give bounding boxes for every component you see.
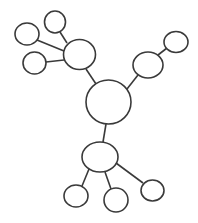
edge-hub-right-to-leaf-r-top bbox=[158, 48, 167, 55]
node-hub-right bbox=[133, 52, 163, 78]
node-center bbox=[86, 80, 131, 124]
edge-center-to-hub-upper-left bbox=[86, 69, 96, 84]
node-hub-upper-left bbox=[64, 40, 96, 70]
node-leaf-ul-left bbox=[15, 23, 39, 45]
node-leaf-b-middle bbox=[104, 188, 128, 212]
network-diagram bbox=[0, 0, 198, 223]
node-leaf-b-left bbox=[64, 185, 88, 207]
node-hub-bottom bbox=[82, 142, 118, 172]
edge-center-to-hub-bottom bbox=[103, 124, 106, 142]
edge-hub-upper-left-to-leaf-ul-top bbox=[60, 32, 67, 43]
edge-hub-bottom-to-leaf-b-middle bbox=[105, 172, 111, 189]
node-leaf-b-right bbox=[141, 180, 164, 201]
node-leaf-ul-bottom bbox=[23, 52, 46, 74]
node-leaf-r-top bbox=[164, 32, 188, 53]
edge-hub-bottom-to-leaf-b-right bbox=[116, 163, 143, 183]
edge-center-to-hub-right bbox=[127, 75, 138, 89]
edge-hub-upper-left-to-leaf-ul-left bbox=[37, 40, 64, 51]
edge-hub-upper-left-to-leaf-ul-bottom bbox=[46, 60, 64, 62]
node-leaf-ul-top bbox=[45, 11, 66, 33]
edge-hub-bottom-to-leaf-b-left bbox=[82, 169, 89, 186]
